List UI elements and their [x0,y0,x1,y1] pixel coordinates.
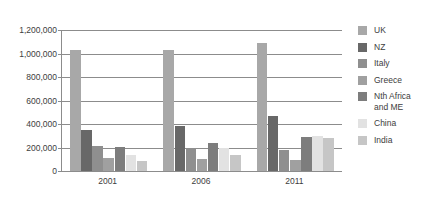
y-axis-tick-label: 0 [1,167,57,176]
y-axis-label-group: 0200,000400,000600,000800,0001,000,0001,… [0,30,57,171]
legend-item[interactable]: China [358,118,429,129]
legend-item[interactable]: NZ [358,42,429,53]
legend-item-label: China [374,118,396,129]
y-axis-tick-label: 1,000,000 [1,50,57,59]
legend-swatch-icon [358,136,367,145]
y-axis-tick-label: 600,000 [1,97,57,106]
legend-swatch-icon [358,76,367,85]
legend-item-label: India [374,135,392,146]
bar [186,148,197,171]
bar [312,136,323,171]
legend-swatch-icon [358,119,367,128]
bar [230,155,241,171]
bar [163,50,174,171]
y-axis-tick-label: 200,000 [1,144,57,153]
bar [137,161,148,171]
legend-item[interactable]: India [358,135,429,146]
bar [208,143,219,171]
y-axis-tick-label: 800,000 [1,73,57,82]
bar [290,160,301,171]
y-axis-tick-label: 1,200,000 [1,26,57,35]
legend-swatch-icon [358,92,367,101]
bar [92,146,103,171]
y-axis-tick [58,171,62,172]
legend-item[interactable]: Greece [358,75,429,86]
legend-swatch-icon [358,43,367,52]
y-axis-tick-label: 400,000 [1,120,57,129]
bar [257,43,268,171]
legend-item[interactable]: Italy [358,58,429,69]
bar [279,150,290,171]
bar [70,50,81,171]
bar [115,147,126,171]
legend-item-label: UK [374,25,386,36]
legend-item-label: Italy [374,58,390,69]
bar [197,159,208,171]
x-axis-tick-label: 2006 [161,176,241,186]
legend-item[interactable]: UK [358,25,429,36]
bar [323,138,334,171]
bar [301,137,312,171]
x-axis-tick-label: 2001 [68,176,148,186]
bars-layer [62,30,341,171]
bar-chart-figure: 0200,000400,000600,000800,0001,000,0001,… [0,0,429,215]
bar [103,158,114,171]
legend-swatch-icon [358,26,367,35]
x-axis-label-group: 200120062011 [61,176,341,190]
bar [268,116,279,171]
bar [81,130,92,171]
bar [126,155,137,171]
bar [219,148,230,171]
x-axis-tick-label: 2011 [254,176,334,186]
bar [175,126,186,171]
legend-item-label: NZ [374,42,385,53]
legend-item-label: Nth Africa and ME [374,91,411,112]
legend-swatch-icon [358,59,367,68]
legend-item[interactable]: Nth Africa and ME [358,91,429,112]
legend-item-label: Greece [374,75,402,86]
chart-legend: UKNZItalyGreeceNth Africa and MEChinaInd… [358,25,429,151]
